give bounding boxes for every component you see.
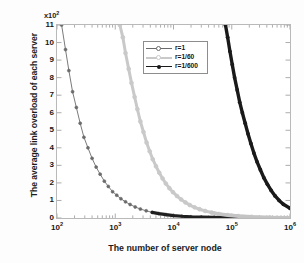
series-marker: [281, 202, 285, 206]
y-axis-tick-label: 9: [32, 56, 54, 64]
series-marker: [79, 122, 82, 125]
series-marker: [115, 194, 118, 197]
series-marker: [246, 132, 250, 136]
series-marker: [124, 200, 127, 203]
series-marker: [249, 142, 253, 146]
y-axis-multiplier-exponent: 2: [56, 10, 59, 16]
x-axis-tick-label: 102: [51, 224, 63, 232]
legend-item[interactable]: r=1/600: [146, 62, 204, 71]
y-axis-tick-label: 2: [32, 179, 54, 187]
series-marker: [203, 209, 207, 213]
series-marker: [233, 76, 237, 80]
series-marker: [64, 48, 67, 51]
series-marker: [262, 176, 266, 180]
series-marker: [134, 205, 137, 208]
series-marker: [127, 67, 131, 71]
series-marker: [145, 141, 149, 145]
y-axis-tick-label: 1: [32, 196, 54, 204]
series-marker: [103, 180, 106, 183]
series-marker: [107, 185, 110, 188]
series-marker: [277, 199, 281, 203]
series-marker: [118, 25, 122, 27]
series-marker: [193, 205, 197, 209]
y-axis-tick-label: 11: [32, 21, 54, 29]
y-axis-tick-label: 6: [32, 109, 54, 117]
series-marker: [230, 63, 234, 67]
y-axis-tick-label: 10: [32, 39, 54, 47]
series-marker: [60, 25, 63, 27]
series-marker: [129, 203, 132, 206]
series-marker: [124, 51, 128, 55]
series-marker: [228, 49, 232, 53]
series-marker: [179, 198, 183, 202]
series-marker: [67, 69, 70, 72]
series-line-2: [225, 25, 290, 208]
legend-swatch-r1: [146, 44, 172, 53]
series-marker: [238, 100, 242, 104]
series-marker: [130, 81, 134, 85]
y-axis-tick-label: 4: [32, 144, 54, 152]
legend-label-r1: r=1: [172, 45, 185, 52]
legend-item[interactable]: r=1: [146, 44, 204, 53]
series-marker: [139, 208, 142, 211]
series-marker: [91, 157, 94, 160]
series-marker: [255, 160, 259, 164]
x-axis-tick-labels: 102103104105106: [0, 224, 304, 240]
x-axis-tick-label: 105: [226, 224, 238, 232]
series-marker: [154, 164, 158, 168]
series-marker: [71, 90, 74, 93]
series-marker: [82, 136, 85, 139]
series-marker: [164, 182, 168, 186]
legend-label-r1-600: r=1/600: [172, 63, 198, 70]
series-marker: [111, 190, 114, 193]
x-axis-tick-label: 103: [109, 224, 121, 232]
series-marker: [99, 173, 102, 176]
y-axis-tick-label: 7: [32, 91, 54, 99]
y-axis-tick-label: 8: [32, 74, 54, 82]
series-marker: [133, 95, 137, 99]
y-axis-tick-label: 5: [32, 126, 54, 134]
series-marker: [252, 151, 256, 155]
series-marker: [142, 130, 146, 134]
series-marker: [273, 194, 277, 198]
chart-figure: The average link overload of each server…: [0, 0, 304, 263]
x-axis-tick-label: 106: [284, 224, 296, 232]
series-marker: [167, 186, 171, 190]
series-marker: [226, 35, 230, 39]
series-marker: [157, 171, 161, 175]
series-marker: [75, 106, 78, 109]
y-axis-tick-label: 3: [32, 161, 54, 169]
series-marker: [95, 166, 98, 169]
series-marker: [148, 149, 152, 153]
x-axis-title: The number of server node: [40, 243, 290, 253]
series-marker: [266, 182, 270, 186]
series-marker: [183, 200, 187, 204]
series-marker: [119, 197, 122, 200]
series-marker: [235, 88, 239, 92]
x-axis-tick-label: 104: [167, 224, 179, 232]
series-marker: [171, 190, 175, 194]
series-marker: [121, 35, 125, 39]
series-marker: [258, 168, 262, 172]
series-marker: [188, 203, 192, 207]
series-marker: [135, 107, 139, 111]
series-marker: [269, 189, 273, 193]
series-marker: [175, 194, 179, 198]
legend-item[interactable]: r=1/60: [146, 53, 204, 62]
legend-label-r1-60: r=1/60: [172, 54, 194, 61]
series-marker: [198, 207, 202, 211]
series-marker: [86, 146, 89, 149]
legend-swatch-r1-600: [146, 62, 172, 71]
y-axis-tick-label: 0: [32, 214, 54, 222]
chart-legend: r=1 r=1/60 r=1/600: [143, 41, 208, 74]
series-marker: [240, 111, 244, 115]
series-marker: [161, 177, 165, 181]
series-marker: [151, 157, 155, 161]
series-marker: [145, 209, 148, 212]
series-marker: [138, 120, 142, 124]
series-marker: [243, 121, 247, 125]
legend-swatch-r1-60: [146, 53, 172, 62]
